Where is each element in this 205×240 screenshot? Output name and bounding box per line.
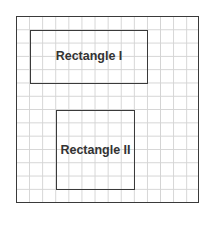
rectangle-one-label: Rectangle I	[56, 49, 123, 63]
rectangle-one: Rectangle I	[30, 30, 148, 84]
rectangle-two-label: Rectangle II	[60, 143, 130, 157]
rectangle-two: Rectangle II	[56, 110, 135, 190]
